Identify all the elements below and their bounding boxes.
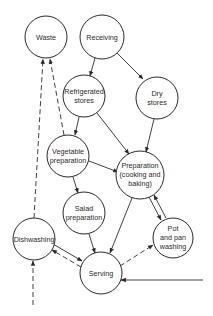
node-pot-and-pan-washing: Pot and pan washing xyxy=(153,218,193,258)
node-label: baking) xyxy=(128,179,152,188)
node-label: Dishwashing xyxy=(14,235,55,244)
edge-preparation-serving xyxy=(110,198,132,253)
node-label: preparation xyxy=(50,156,86,165)
node-label: Waste xyxy=(36,33,56,42)
node-label: washing xyxy=(159,242,186,251)
node-refrigerated-stores: Refrigerated stores xyxy=(63,75,105,117)
edge-pot-preparation xyxy=(154,195,166,218)
edge-refrigerated-vegetable xyxy=(75,117,79,135)
edge-dishwashing-serving xyxy=(53,244,82,261)
edge-vegetable-waste xyxy=(50,59,64,135)
node-serving: Serving xyxy=(80,252,122,294)
node-label: stores xyxy=(74,96,94,105)
node-label: Pot xyxy=(168,224,179,233)
edge-vegetable-preparation xyxy=(89,161,118,172)
node-label: preparation xyxy=(66,213,102,222)
edge-vegetable-salad xyxy=(73,177,78,193)
edge-salad-serving xyxy=(89,234,95,253)
node-dry-stores: Dry stores xyxy=(136,77,178,119)
edge-serving-pot xyxy=(120,245,153,266)
node-label: (cooking and xyxy=(119,170,160,179)
edge-preparation-pot xyxy=(149,197,161,220)
node-label: and pan xyxy=(160,233,186,242)
edge-dry-preparation xyxy=(146,119,154,152)
edge-dishwashing-waste xyxy=(34,59,43,218)
edge-serving-dishwashing xyxy=(52,250,81,267)
edge-receiving-refrigerated xyxy=(90,58,95,76)
node-label: Receiving xyxy=(86,33,118,42)
node-preparation: Preparation (cooking and baking) xyxy=(116,151,164,199)
node-label: Refrigerated xyxy=(64,87,104,96)
node-label: Salad xyxy=(75,204,93,213)
node-label: stores xyxy=(147,98,167,107)
node-label: Preparation xyxy=(121,161,158,170)
node-waste: Waste xyxy=(25,16,67,58)
node-receiving: Receiving xyxy=(80,15,124,59)
edge-refrigerated-preparation xyxy=(97,113,129,154)
flow-diagram: Waste Receiving Refrigerated stores Dry … xyxy=(0,0,213,316)
node-label: Serving xyxy=(89,269,113,278)
node-label: Vegetable xyxy=(52,147,84,156)
node-salad-preparation: Salad preparation xyxy=(63,192,105,234)
node-label: Dry xyxy=(151,89,163,98)
node-vegetable-preparation: Vegetable preparation xyxy=(47,135,89,177)
node-dishwashing: Dishwashing xyxy=(13,218,55,260)
edge-receiving-dry xyxy=(117,53,143,79)
